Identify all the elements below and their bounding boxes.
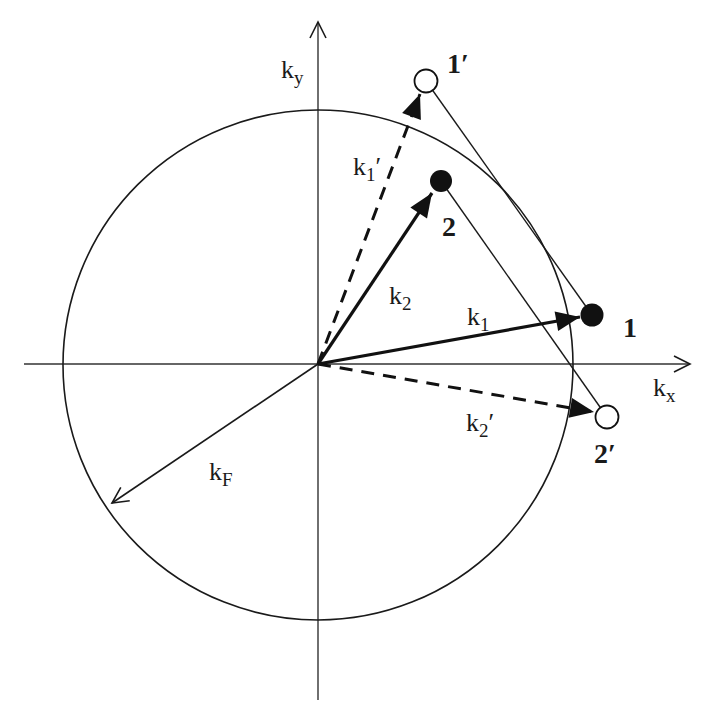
k2-vector: [318, 193, 432, 364]
k1-label: k1: [467, 304, 490, 334]
k-space-diagram: ky kx kF k2 k1 k1′ k2′ 1 2 1′ 2′: [0, 0, 710, 717]
point-2-filled: [430, 170, 452, 192]
point-2prime-open: [596, 406, 619, 429]
diagram-canvas: [0, 0, 710, 717]
point-1prime-label: 1′: [447, 50, 469, 78]
point-2prime-label: 2′: [594, 440, 616, 468]
point-1prime-open: [415, 70, 438, 93]
k1-vector: [318, 317, 580, 364]
point-2-label: 2: [442, 213, 456, 241]
k2prime-vector: [318, 364, 594, 412]
connector-1prime-1: [426, 81, 592, 315]
k1prime-label: k1′: [353, 154, 381, 184]
point-1-label: 1: [623, 314, 637, 342]
k1prime-vector: [318, 94, 420, 364]
ky-label: ky: [281, 57, 304, 87]
point-1-filled: [581, 304, 604, 327]
k2-label: k2: [389, 283, 412, 313]
kF-label: kF: [209, 459, 233, 489]
kx-label: kx: [653, 375, 676, 405]
connector-2-2prime: [441, 181, 607, 417]
k2prime-label: k2′: [466, 410, 494, 440]
